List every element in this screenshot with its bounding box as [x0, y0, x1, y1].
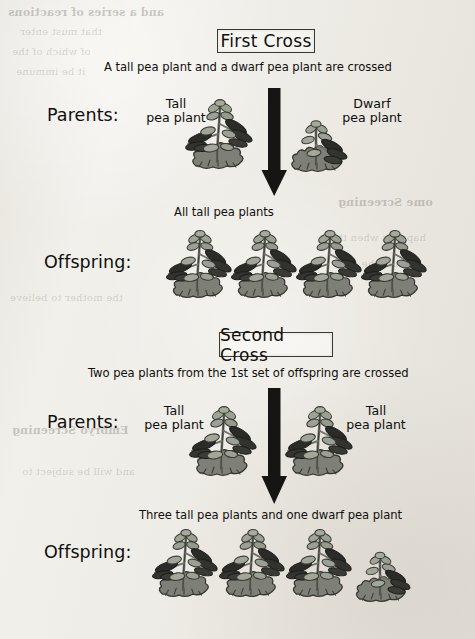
plant-tall — [354, 228, 432, 302]
plant-tall — [182, 404, 262, 480]
second-cross-heading: Second Cross — [219, 332, 333, 357]
first-cross-arrow — [258, 88, 290, 198]
first-cross-parents-label: Parents: — [47, 105, 119, 125]
second-cross-caption: Two pea plants from the 1st set of offsp… — [88, 366, 409, 380]
first-cross-parent-2-label: Dwarf pea plant — [330, 97, 414, 125]
first-cross-result-caption: All tall pea plants — [174, 205, 274, 219]
plant-dwarf — [345, 537, 415, 603]
first-cross-caption: A tall pea plant and a dwarf pea plant a… — [104, 60, 392, 74]
first-cross-heading: First Cross — [217, 29, 315, 53]
second-cross-parents-label: Parents: — [47, 412, 119, 432]
first-cross-offspring-label: Offspring: — [44, 252, 131, 272]
second-cross-parent-2-label: Tall pea plant — [334, 404, 418, 432]
second-cross-offspring-label: Offspring: — [44, 542, 131, 562]
plant-tall — [178, 97, 258, 173]
figure-page: and a series of reactions that must ente… — [0, 0, 475, 639]
second-cross-result-caption: Three tall pea plants and one dwarf pea … — [139, 508, 402, 522]
second-cross-arrow — [258, 388, 290, 506]
